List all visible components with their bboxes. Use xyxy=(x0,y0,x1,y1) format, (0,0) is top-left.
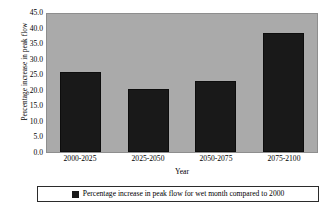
bar[interactable] xyxy=(195,81,236,152)
bar[interactable] xyxy=(263,33,304,152)
bar-slot xyxy=(250,14,318,152)
x-axis-tick-label: 2000-2025 xyxy=(46,155,114,163)
y-axis-tick-label: 10.0 xyxy=(18,118,43,126)
legend-entry-label: Percentage increase in peak flow for wet… xyxy=(83,190,285,198)
y-axis-tick-label: 35.0 xyxy=(18,40,43,48)
bar-slot xyxy=(182,14,250,152)
bar[interactable] xyxy=(60,72,101,152)
y-axis-tick-label: 40.0 xyxy=(18,25,43,33)
bars-layer xyxy=(47,14,317,152)
legend: Percentage increase in peak flow for wet… xyxy=(37,186,319,202)
y-axis-tick-label: 30.0 xyxy=(18,56,43,64)
bar-slot xyxy=(47,14,115,152)
x-axis-tick-label: 2050-2075 xyxy=(182,155,250,163)
bar-chart: Percentage increase in peak flow 45.040.… xyxy=(0,0,330,213)
x-axis-tick-label: 2025-2050 xyxy=(114,155,182,163)
x-axis-tick-label: 2075-2100 xyxy=(250,155,318,163)
bar[interactable] xyxy=(128,89,169,152)
x-axis-tick-labels: 2000-20252025-20502050-20752075-2100 xyxy=(46,155,318,163)
y-axis-tick-label: 45.0 xyxy=(18,9,43,17)
y-axis-tick-label: 20.0 xyxy=(18,87,43,95)
y-axis-tick-label: 0.0 xyxy=(18,149,43,157)
plot-area xyxy=(46,13,318,153)
legend-entry: Percentage increase in peak flow for wet… xyxy=(72,190,285,198)
x-axis-title: Year xyxy=(46,168,318,176)
legend-swatch-icon xyxy=(72,191,79,198)
y-axis-tick-labels: 45.040.035.030.025.020.015.010.05.00.0 xyxy=(18,13,43,153)
y-axis-tick-label: 25.0 xyxy=(18,71,43,79)
bar-slot xyxy=(115,14,183,152)
y-axis-tick-label: 15.0 xyxy=(18,103,43,111)
y-axis-tick-label: 5.0 xyxy=(18,134,43,142)
